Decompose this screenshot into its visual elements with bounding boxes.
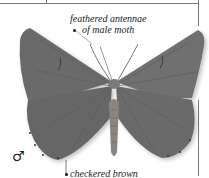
male-symbol-icon: ♂: [12, 148, 25, 164]
antennae-label-line1: feathered antennae: [70, 13, 147, 24]
wing-edge-label-dot: [65, 173, 68, 176]
antennae-label-line2: of male moth: [82, 24, 134, 35]
wing-edge-label: checkered brown: [70, 168, 138, 178]
antennae-label-dot: [73, 29, 76, 32]
